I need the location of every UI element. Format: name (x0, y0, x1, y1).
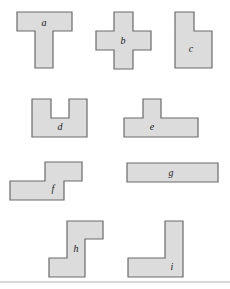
shape-label: h (74, 243, 79, 254)
shape-d: d (32, 99, 87, 137)
shape-c: c (175, 12, 212, 68)
shape-label: g (169, 167, 174, 178)
shapes-layer: abcdefghi (10, 12, 218, 277)
shape-label: e (150, 121, 155, 132)
shape-f-outline (10, 162, 82, 200)
shape-label: a (42, 17, 47, 28)
shape-f: f (10, 162, 82, 200)
shape-i: i (128, 221, 183, 277)
shape-a: a (17, 12, 72, 68)
shape-label: b (121, 35, 126, 46)
shape-e-outline (124, 99, 198, 137)
shape-h: h (49, 221, 103, 277)
shape-e: e (124, 99, 198, 137)
shape-label: i (171, 261, 174, 272)
shape-c-outline (175, 12, 212, 68)
shape-g: g (127, 163, 218, 182)
figure-svg: abcdefghi (0, 0, 230, 289)
shape-label: c (189, 43, 194, 54)
shape-i-outline (128, 221, 183, 277)
shape-b: b (96, 12, 151, 69)
shapes-figure: abcdefghi (0, 0, 230, 289)
